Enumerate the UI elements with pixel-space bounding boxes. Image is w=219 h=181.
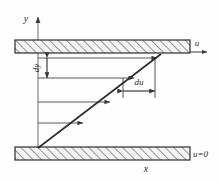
bottom-plate	[15, 147, 190, 160]
u-label: u	[195, 38, 200, 48]
x-axis-label: x	[143, 163, 149, 174]
bottom-plate-body	[15, 147, 190, 160]
y-axis-label: y	[23, 13, 29, 24]
u-zero-label: u=0	[193, 149, 209, 159]
top-plate	[15, 40, 190, 53]
du-label: du	[135, 77, 145, 87]
figure-svg: y u u=0 x dy	[0, 0, 219, 181]
dy-label: dy	[31, 64, 41, 73]
velocity-profile-line	[38, 54, 161, 148]
viscosity-couette-flow-figure: y u u=0 x dy	[0, 0, 219, 181]
top-plate-body	[15, 40, 190, 53]
